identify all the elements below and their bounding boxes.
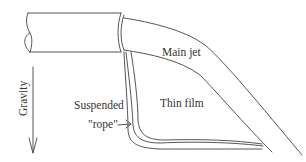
nozzle-pipe <box>25 13 124 52</box>
main-jet <box>124 18 302 155</box>
main-jet-label: Main jet <box>162 46 201 59</box>
gravity-arrow <box>29 67 37 153</box>
gravity-label: Gravity <box>17 81 30 116</box>
rope-arrow <box>118 120 131 128</box>
suspended-label: Suspended <box>74 99 124 112</box>
thin-film-label: Thin film <box>160 97 204 109</box>
jet-film-diagram: Main jet Thin film Suspended "rope" Grav… <box>0 0 306 162</box>
rope-label: "rope" <box>88 118 118 131</box>
